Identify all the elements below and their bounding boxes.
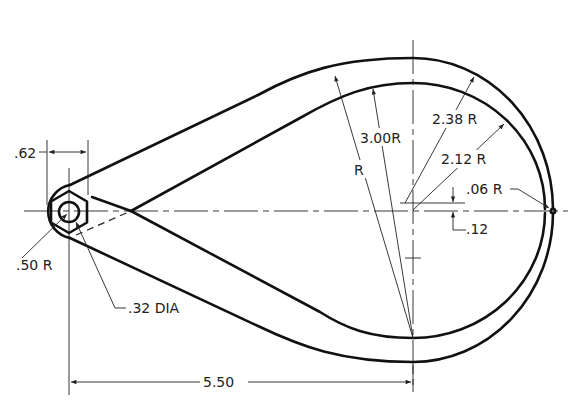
- dim-label: 2.12 R: [441, 151, 487, 167]
- dim-tip-fillet: .06 R: [466, 181, 549, 208]
- dim-hub-radius: .50 R: [16, 214, 67, 273]
- dim-overall-length: 5.50: [69, 255, 413, 395]
- dim-label: 5.50: [203, 374, 234, 390]
- dim-hole-dia: .32 DIA: [76, 222, 180, 316]
- dim-label: .32 DIA: [128, 300, 180, 316]
- technical-drawing: .62 .50 R .32 DIA 5.50 R 3.00R 2.38 R 2.…: [0, 0, 574, 409]
- leader: [453, 228, 466, 230]
- radius-line-R: [335, 76, 413, 338]
- dim-label: .06 R: [466, 181, 503, 197]
- hub-to-wedge-edge: [92, 197, 131, 211]
- outer-profile: [48, 58, 555, 362]
- dim-inner-radius: 2.12 R: [413, 124, 504, 210]
- dim-label-3: 3.00R: [360, 130, 401, 146]
- leader: [22, 214, 67, 258]
- dim-label: .62: [14, 145, 36, 161]
- dim-label: 2.38 R: [432, 111, 478, 127]
- dim-large-radii: R 3.00R: [335, 76, 413, 338]
- leader: [76, 222, 126, 308]
- dim-label: .50 R: [16, 257, 53, 273]
- dim-label-R: R: [354, 162, 364, 178]
- radius-line: [405, 77, 474, 203]
- radius-line-3: [373, 89, 413, 338]
- centerlines: [24, 40, 568, 385]
- dim-label: .12: [466, 221, 488, 237]
